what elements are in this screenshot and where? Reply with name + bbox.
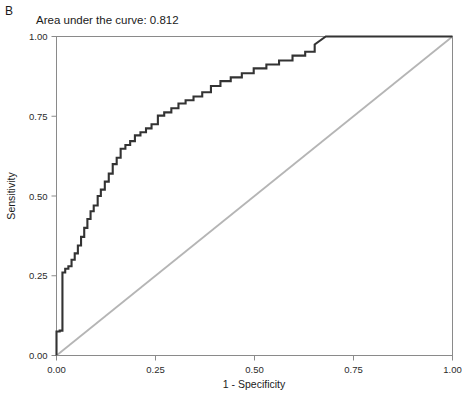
x-tick-label: 0.75 <box>344 364 363 375</box>
y-tick-label: 0.50 <box>29 191 48 202</box>
x-tick-label: 0.00 <box>47 364 66 375</box>
x-axis-tick-labels: 0.000.250.500.751.00 <box>47 364 462 375</box>
roc-figure: B Area under the curve: 0.812 0.000.250.… <box>0 0 468 394</box>
x-tick-label: 1.00 <box>443 364 462 375</box>
roc-plot: 0.000.250.500.751.00 0.000.250.500.751.0… <box>0 0 468 394</box>
y-tick-label: 0.00 <box>29 350 48 361</box>
y-tick-label: 0.75 <box>29 111 48 122</box>
x-tick-label: 0.50 <box>245 364 264 375</box>
reference-diagonal-line <box>57 37 453 356</box>
y-axis-title: Sensitivity <box>5 172 17 220</box>
x-axis-title: 1 - Specificity <box>223 378 286 390</box>
x-tick-label: 0.25 <box>146 364 165 375</box>
y-axis-tick-labels: 0.000.250.500.751.00 <box>29 31 48 361</box>
y-tick-label: 1.00 <box>29 31 48 42</box>
y-tick-label: 0.25 <box>29 270 48 281</box>
y-axis-ticks <box>52 37 57 356</box>
series-layer <box>57 37 453 356</box>
x-axis-ticks <box>57 356 453 361</box>
